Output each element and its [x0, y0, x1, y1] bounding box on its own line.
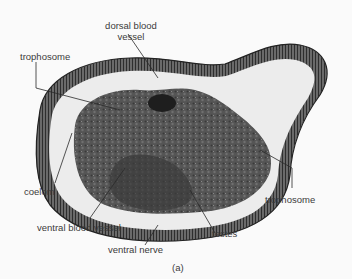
cross-section-micrograph [0, 0, 352, 279]
label-ventral-nerve: ventral nerve [108, 244, 163, 255]
label-trophosome-upper: trophosome [20, 51, 70, 62]
label-dorsal-blood-vessel-line2: vessel [96, 31, 166, 42]
label-ventral-blood-vessel: ventral blood vessel [37, 222, 121, 233]
label-coelom: coelom [24, 186, 55, 197]
micrograph-figure: dorsal blood vessel trophosome coelom ve… [0, 0, 352, 279]
dorsal-blood-vessel [148, 94, 176, 112]
label-dorsal-blood-vessel-line1: dorsal blood [96, 20, 166, 31]
figure-caption: (a) [172, 262, 184, 273]
label-dorsal-blood-vessel: dorsal blood vessel [96, 20, 166, 42]
label-testes: testes [212, 228, 237, 239]
label-trophosome-lower: trophosome [265, 194, 315, 205]
